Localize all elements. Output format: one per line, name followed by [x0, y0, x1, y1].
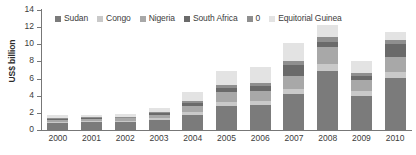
- bar-segment: [351, 96, 372, 130]
- bar-segment: [250, 67, 271, 82]
- y-axis-tick-mark: [37, 27, 41, 28]
- bar-segment: [283, 94, 304, 130]
- bar-group[interactable]: [149, 108, 170, 130]
- x-axis-tick-label: 2001: [75, 133, 109, 143]
- bar-segment: [81, 122, 102, 130]
- y-axis-tick-mark: [37, 61, 41, 62]
- bar-group[interactable]: [385, 32, 406, 130]
- bar-segment: [149, 120, 170, 130]
- x-axis-tick-label: 2009: [344, 133, 378, 143]
- bar-segment: [182, 92, 203, 101]
- x-axis-tick-label: 2003: [142, 133, 176, 143]
- x-axis-tick-label: 2007: [277, 133, 311, 143]
- x-axis-tick-labels: 2000200120022003200420052006200720082009…: [41, 133, 412, 147]
- bar-segment: [283, 76, 304, 89]
- bar-segment: [317, 25, 338, 37]
- bar-segment: [216, 106, 237, 130]
- y-axis-tick-label: 8: [4, 56, 34, 65]
- y-axis-tick-label: 6: [4, 74, 34, 83]
- bar-group[interactable]: [47, 115, 68, 130]
- y-axis-tick-mark: [37, 130, 41, 131]
- y-axis-tick-label: 10: [4, 39, 34, 48]
- y-axis-tick-mark: [37, 96, 41, 97]
- bar-segment: [250, 91, 271, 101]
- x-axis-line: [41, 130, 412, 131]
- y-axis-tick-label: 4: [4, 91, 34, 100]
- y-axis-tick-mark: [37, 113, 41, 114]
- bar-group[interactable]: [283, 43, 304, 130]
- y-axis-tick-mark: [37, 10, 41, 11]
- x-axis-tick-label: 2002: [108, 133, 142, 143]
- y-axis-tick-label: 0: [4, 125, 34, 134]
- bar-segment: [317, 64, 338, 71]
- bar-segment: [115, 122, 136, 130]
- y-axis-tick-labels: 14121086420: [0, 0, 34, 155]
- bar-segment: [385, 78, 406, 130]
- plot-area: [41, 10, 412, 130]
- bar-segment: [351, 61, 372, 73]
- bar-segment: [317, 71, 338, 130]
- bar-segment: [385, 57, 406, 72]
- bar-segment: [385, 44, 406, 57]
- bar-segment: [47, 123, 68, 130]
- y-axis-tick-mark: [37, 44, 41, 45]
- stacked-bar-chart: SudanCongoNigeriaSouth Africa0Equitorial…: [0, 0, 416, 155]
- bar-segment: [182, 115, 203, 130]
- bar-segment: [385, 32, 406, 40]
- x-axis-tick-label: 2005: [210, 133, 244, 143]
- x-axis-tick-label: 2008: [311, 133, 345, 143]
- bar-group[interactable]: [182, 92, 203, 130]
- bar-segment: [216, 71, 237, 86]
- y-axis-tick-label: 12: [4, 22, 34, 31]
- y-axis-tick-label: 14: [4, 5, 34, 14]
- bar-segment: [216, 92, 237, 101]
- x-axis-tick-label: 2010: [378, 133, 412, 143]
- y-axis-tick-mark: [37, 79, 41, 80]
- bar-group[interactable]: [216, 71, 237, 130]
- y-axis-tick-label: 2: [4, 108, 34, 117]
- bar-group[interactable]: [115, 114, 136, 130]
- x-axis-tick-label: 2006: [243, 133, 277, 143]
- bar-group[interactable]: [81, 115, 102, 130]
- bar-group[interactable]: [317, 25, 338, 130]
- bar-segment: [283, 43, 304, 60]
- bar-segment: [317, 47, 338, 64]
- bar-segment: [250, 105, 271, 130]
- bar-segment: [283, 65, 304, 76]
- bar-segment: [351, 80, 372, 91]
- x-axis-tick-label: 2000: [41, 133, 75, 143]
- bar-group[interactable]: [250, 67, 271, 130]
- bar-group[interactable]: [351, 61, 372, 130]
- x-axis-tick-label: 2004: [176, 133, 210, 143]
